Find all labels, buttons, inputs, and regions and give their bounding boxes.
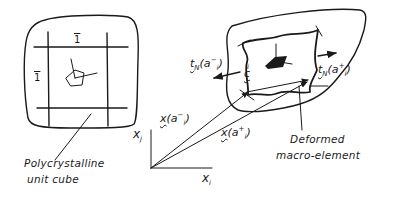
- traction-right-close: ): [346, 63, 350, 76]
- cube-top-dimension-label: 1: [74, 35, 80, 45]
- position-plus-label: x(a+i): [221, 126, 251, 141]
- traction-right-argument: (a: [328, 63, 339, 76]
- position-minus-sup: −: [178, 111, 184, 119]
- macro-element-caption-line2: macro-element: [276, 150, 360, 161]
- position-minus-close: ): [185, 112, 189, 125]
- cube-line-right: [107, 33, 108, 126]
- traction-right-sup: +: [339, 62, 345, 70]
- axis-xj-label: xj: [133, 128, 142, 143]
- traction-left-argument: (a: [200, 57, 211, 70]
- vector-c-label: ic: [244, 64, 250, 79]
- cube-line-left: [48, 32, 49, 126]
- cube-left-dimension-label: 1: [34, 73, 40, 83]
- corner-tick-1: [238, 40, 250, 46]
- position-plus-close: ): [246, 126, 250, 139]
- position-minus-label: x(a−i): [160, 112, 190, 127]
- grain-axis-1: [71, 59, 75, 78]
- axis-xi-label: xi: [202, 172, 211, 187]
- position-plus-argument: (a: [228, 126, 239, 139]
- position-plus-sup: +: [239, 125, 245, 133]
- traction-left-sup: −: [211, 56, 217, 64]
- unit-cube-caption-line2: unit cube: [27, 174, 79, 185]
- traction-left-label: tN(a−i): [190, 57, 223, 72]
- axis-xj-subscript: j: [140, 135, 142, 143]
- traction-right-arrow: [318, 53, 336, 56]
- position-minus-argument: (a: [167, 112, 178, 125]
- unit-cube-caption-line1: Polycrystalline: [24, 158, 105, 169]
- traction-right-label: tN(a+i): [318, 63, 351, 78]
- cube-leader-line: [55, 114, 91, 160]
- vector-c-symbol: c: [244, 67, 250, 80]
- traction-left-close: ): [218, 57, 222, 70]
- grain-axis-2: [75, 73, 97, 78]
- axis-xi-subscript: i: [209, 179, 211, 187]
- macro-element-caption-line1: Deformed: [290, 134, 345, 145]
- unit-cube-group: [24, 15, 138, 160]
